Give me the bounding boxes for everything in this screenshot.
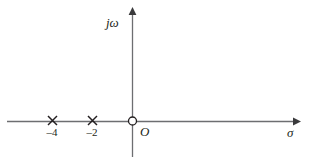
- plot-svg: [0, 0, 311, 167]
- origin-label: O: [140, 125, 149, 138]
- zero-marker-origin: [129, 117, 137, 125]
- horizontal-axis-arrowhead: [293, 118, 301, 126]
- horizontal-axis-label: σ: [287, 126, 293, 139]
- pole-marker-minus-4: [48, 116, 57, 125]
- vertical-axis-arrowhead: [129, 7, 137, 15]
- tick-label-minus-2: –2: [78, 127, 106, 138]
- plot-area: [0, 0, 311, 167]
- tick-label-minus-4: –4: [38, 127, 66, 138]
- pole-marker-minus-2: [88, 116, 97, 125]
- s-plane-pole-zero-figure: jω σ O –4 –2: [0, 0, 311, 167]
- vertical-axis-label: jω: [106, 16, 119, 29]
